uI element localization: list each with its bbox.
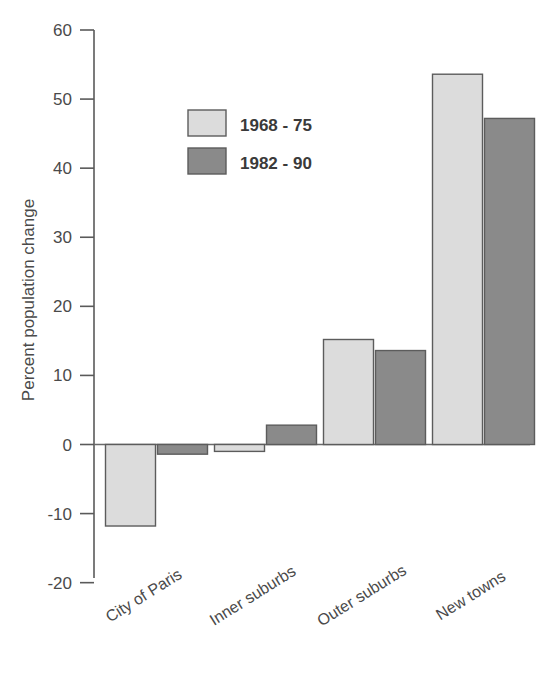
bar xyxy=(215,445,265,452)
bar xyxy=(324,339,374,444)
light-gray-swatch xyxy=(188,110,226,136)
y-axis-tick-label: 30 xyxy=(53,228,72,247)
bar xyxy=(267,425,317,444)
y-axis-title: Percent population change xyxy=(19,199,38,401)
legend-label-1968-75: 1968 - 75 xyxy=(240,116,312,135)
y-axis-tick-label: -20 xyxy=(47,574,72,593)
y-axis-tick-label: -10 xyxy=(47,505,72,524)
bar xyxy=(106,445,156,527)
legend-label-1982-90: 1982 - 90 xyxy=(240,154,312,173)
bar xyxy=(158,445,208,455)
y-axis-tick-label: 0 xyxy=(63,436,72,455)
y-axis-tick-label: 10 xyxy=(53,366,72,385)
bar xyxy=(376,351,426,445)
dark-gray-swatch xyxy=(188,148,226,174)
y-axis-tick-label: 40 xyxy=(53,159,72,178)
chart-svg: -20-100102030405060 City of ParisInner s… xyxy=(0,0,545,700)
bar xyxy=(433,74,483,444)
bar xyxy=(485,118,535,444)
bar-chart: -20-100102030405060 City of ParisInner s… xyxy=(0,0,545,700)
y-axis-tick-label: 20 xyxy=(53,297,72,316)
y-axis-tick-label: 50 xyxy=(53,90,72,109)
y-axis-tick-label: 60 xyxy=(53,21,72,40)
